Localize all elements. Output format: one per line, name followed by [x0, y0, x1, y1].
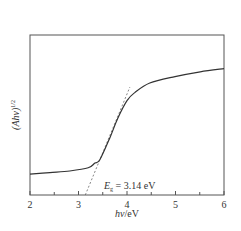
x-tick-label: 2: [28, 199, 33, 210]
y-axis-label: (Ahν)1/2: [10, 100, 22, 130]
data-curve: [30, 69, 224, 175]
band-gap-plot: 23456 Eg = 3.14 eV hν/eV (Ahν)1/2: [0, 0, 241, 231]
x-tick-label: 6: [222, 199, 227, 210]
y-axis-label-main: (Ahν): [10, 107, 22, 130]
plot-frame: [30, 35, 224, 195]
x-axis-label-unit: /eV: [125, 208, 140, 219]
tangent-line: [85, 87, 130, 195]
x-tick-label: 5: [173, 199, 178, 210]
annotation-value: = 3.14 eV: [113, 180, 156, 191]
x-tick-label: 3: [76, 199, 81, 210]
x-axis-ticks: [30, 191, 224, 195]
chart: 23456 Eg = 3.14 eV hν/eV (Ahν)1/2: [0, 0, 241, 231]
band-gap-annotation: Eg = 3.14 eV: [103, 180, 156, 192]
y-axis-label-sup: 1/2: [10, 100, 16, 108]
annotation-symbol: E: [103, 180, 110, 191]
x-axis-label: hν/eV: [115, 208, 140, 219]
